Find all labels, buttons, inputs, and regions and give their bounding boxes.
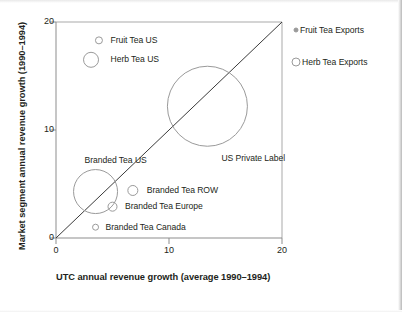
data-bubble bbox=[108, 202, 117, 211]
y-tick-label-10: 10 bbox=[40, 124, 54, 134]
x-tick-label-10: 10 bbox=[162, 245, 176, 255]
data-bubble bbox=[74, 170, 118, 214]
legend-label: Fruit Tea Exports bbox=[300, 25, 364, 35]
y-tick-label-20: 20 bbox=[40, 16, 54, 26]
data-bubble-label: Branded Tea Europe bbox=[125, 201, 203, 211]
data-bubble bbox=[128, 185, 138, 195]
data-bubble bbox=[93, 224, 99, 230]
data-bubble-label: Branded Tea US bbox=[85, 155, 147, 165]
y-axis-title: Market segment annual revenue growth (19… bbox=[17, 22, 27, 250]
legend-marker bbox=[292, 58, 300, 66]
data-bubble-label: US Private Label bbox=[221, 153, 285, 163]
data-bubble-label: Branded Tea Canada bbox=[106, 222, 186, 232]
data-bubble-label: Branded Tea ROW bbox=[147, 185, 218, 195]
scatter-plot-canvas bbox=[0, 0, 402, 312]
y-tick-label-0: 0 bbox=[40, 232, 54, 242]
x-tick-label-20: 20 bbox=[275, 245, 289, 255]
data-bubble bbox=[167, 66, 247, 146]
x-axis-title: UTC annual revenue growth (average 1990–… bbox=[56, 272, 270, 282]
data-bubble-label: Fruit Tea US bbox=[110, 35, 157, 45]
x-tick-label-0: 0 bbox=[49, 245, 63, 255]
data-bubble-label: Herb Tea US bbox=[111, 54, 160, 64]
chart-figure: Market segment annual revenue growth (19… bbox=[0, 0, 402, 312]
legend-label: Herb Tea Exports bbox=[302, 57, 367, 67]
data-bubble bbox=[84, 52, 99, 67]
legend-markers bbox=[292, 28, 300, 66]
data-bubble bbox=[95, 37, 102, 44]
legend-marker bbox=[294, 28, 298, 32]
